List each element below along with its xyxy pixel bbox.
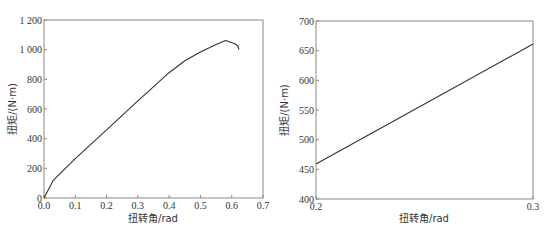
- left-plot-frame: [44, 20, 263, 198]
- right-plot-frame: [316, 21, 533, 199]
- right-ticks: 0.20.3400450500550600650700: [299, 16, 539, 213]
- y-tick-label: 650: [299, 45, 314, 56]
- y-tick-label: 400: [27, 133, 42, 144]
- y-tick-label: 600: [299, 75, 314, 86]
- x-tick-label: 0.5: [194, 200, 207, 211]
- x-tick-label: 0.2: [100, 200, 113, 211]
- left-chart-panel: 0.00.10.20.30.40.50.60.702004006008001 0…: [6, 15, 269, 225]
- right-chart-panel: 0.20.3400450500550600650700 扭转角/rad 扭矩/(…: [278, 16, 539, 225]
- left-y-axis-label: 扭矩/(N·m): [6, 83, 18, 135]
- right-y-axis-label: 扭矩/(N·m): [278, 84, 290, 136]
- x-tick-label: 0.4: [163, 200, 176, 211]
- y-tick-label: 1 000: [20, 44, 43, 55]
- y-tick-label: 200: [27, 163, 42, 174]
- left-series-line: [44, 41, 239, 199]
- y-tick-label: 800: [27, 74, 42, 85]
- right-series-line: [316, 44, 533, 164]
- y-tick-label: 550: [299, 105, 314, 116]
- x-tick-label: 0.6: [225, 200, 238, 211]
- y-tick-label: 600: [27, 104, 42, 115]
- chart-canvas: 0.00.10.20.30.40.50.60.702004006008001 0…: [0, 0, 549, 241]
- x-tick-label: 0.7: [257, 200, 270, 211]
- right-x-axis-label: 扭转角/rad: [399, 212, 449, 224]
- x-tick-label: 0.3: [132, 200, 145, 211]
- left-x-axis-label: 扭转角/rad: [128, 212, 178, 224]
- y-tick-label: 500: [299, 134, 314, 145]
- y-tick-label: 400: [299, 194, 314, 205]
- x-tick-label: 0.1: [69, 200, 82, 211]
- y-tick-label: 450: [299, 164, 314, 175]
- y-tick-label: 700: [299, 16, 314, 27]
- x-tick-label: 0.3: [527, 201, 540, 212]
- y-tick-label: 0: [37, 193, 42, 204]
- left-ticks: 0.00.10.20.30.40.50.60.702004006008001 0…: [20, 15, 270, 212]
- y-tick-label: 1 200: [20, 15, 43, 26]
